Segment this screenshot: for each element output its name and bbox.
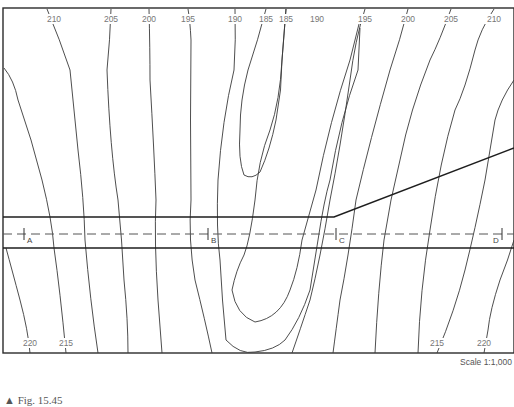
contour-label: 215: [59, 338, 73, 348]
contour-label: 190: [310, 14, 324, 24]
bottom-contour-labels: 220 215 215 220: [20, 338, 494, 348]
contour-label: 205: [444, 14, 458, 24]
figure-caption: ▲ Fig. 15.45: [4, 394, 63, 406]
contour-205-right: [375, 9, 451, 353]
contour-lines: [4, 9, 514, 353]
contour-215-right: [437, 80, 514, 353]
station-label-b: B: [211, 236, 216, 245]
contour-label: 210: [487, 14, 501, 24]
contour-label: 190: [228, 14, 242, 24]
scale-label: Scale 1:1,000: [460, 357, 512, 367]
contour-200-left: [149, 9, 162, 353]
contour-205-left: [107, 9, 128, 353]
contour-190-left: [217, 9, 360, 353]
top-contour-labels: 210 205 200 195 190 185 185 190 195 200 …: [44, 14, 504, 24]
contour-220-right: [484, 240, 514, 353]
contour-label: 200: [142, 14, 156, 24]
contour-label: 185: [279, 14, 293, 24]
contour-label: 195: [181, 14, 195, 24]
station-label-a: A: [27, 236, 33, 245]
contour-195-right: [292, 9, 365, 353]
contour-215-left-outer: [4, 68, 66, 353]
contour-label: 210: [47, 14, 61, 24]
contour-label: 220: [477, 338, 491, 348]
contour-label: 195: [358, 14, 372, 24]
contour-label: 205: [104, 14, 118, 24]
contour-label: 220: [23, 338, 37, 348]
contour-label: 185: [259, 14, 273, 24]
contour-195-left: [188, 9, 212, 353]
station-label-c: C: [339, 236, 345, 245]
contour-label: 200: [401, 14, 415, 24]
station-label-d: D: [493, 236, 499, 245]
contour-190-inner: [232, 9, 360, 322]
contour-210-left: [47, 9, 98, 353]
contour-label: 215: [430, 338, 444, 348]
map-frame: [3, 8, 514, 353]
contour-map: A B C D 210 205 200 195 190 185 185 190 …: [0, 0, 514, 407]
contour-200-right: [333, 9, 408, 353]
